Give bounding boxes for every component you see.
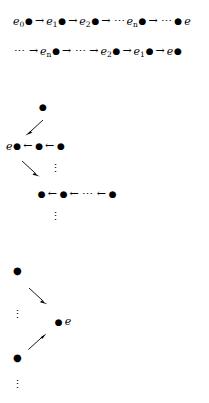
- arrow-left-4: ←: [70, 187, 79, 200]
- arrow-right-2: →: [68, 14, 77, 27]
- vdots-upper-block: ⋮: [50, 163, 61, 174]
- bullet-en: ●: [139, 16, 147, 26]
- bullet-second-lower-chain: ●: [60, 189, 68, 199]
- bullet-e-upper-chain: ●: [13, 141, 21, 151]
- node-label-e2: e2: [79, 15, 90, 28]
- horizontal-ellipsis-3: ⋯: [14, 45, 26, 58]
- lower-indented-chain-row: ●←●←⋯←●: [37, 188, 117, 200]
- arrow-left-2: ←: [45, 139, 54, 152]
- horizontal-ellipsis-2: ⋯: [161, 15, 173, 28]
- vdots-lower-left-bottom: ⋮: [12, 379, 23, 390]
- arrow-left-1: ←: [23, 139, 32, 152]
- bullet-e-row2: ●: [174, 46, 182, 56]
- apex-dot-lower-block: ●: [13, 266, 22, 276]
- bullet-right-lower-chain: ●: [109, 189, 117, 199]
- node-label-e-terminal-row1: e: [184, 15, 191, 28]
- node-label-en-row2: en: [40, 45, 51, 58]
- bullet-e1-row2: ●: [146, 46, 154, 56]
- node-label-en: en: [126, 15, 137, 28]
- bullet-e2: ●: [91, 16, 99, 26]
- bullet-en-row2: ●: [52, 46, 60, 56]
- arrow-right-1: →: [35, 14, 44, 27]
- upper-left-chain-row: e●←●←●: [6, 140, 65, 152]
- bullet-mid-upper-chain: ●: [35, 141, 43, 151]
- node-label-e0: e0: [13, 15, 24, 28]
- horizontal-ellipsis-4: ⋯: [75, 45, 87, 58]
- node-label-e-bottom-terminal: e: [65, 315, 72, 328]
- horizontal-ellipsis-5: ⋯: [82, 188, 94, 201]
- vdots-lower-left-upper: ⋮: [12, 309, 23, 320]
- bullet-right-upper-chain: ●: [57, 141, 65, 151]
- bullet-e0: ●: [25, 16, 33, 26]
- diagonal-arrow-southwest-upper: [24, 119, 44, 136]
- forward-chain-row: e0●→e1●→e2●→⋯en●→⋯●e: [13, 15, 191, 28]
- arrow-right-4: →: [148, 14, 157, 27]
- backward-chain-row: ⋯→en●→⋯→e2●→e1●→e●: [13, 45, 182, 58]
- arrow-left-3: ←: [48, 187, 57, 200]
- node-label-e2-row2: e2: [100, 45, 111, 58]
- bottom-terminal-row: ●e: [54, 316, 71, 327]
- node-label-e-upper-chain: e: [6, 140, 13, 153]
- node-label-e-row2: e: [167, 45, 174, 58]
- arrow-right-3: →: [101, 14, 110, 27]
- arrow-right-7: →: [89, 44, 98, 57]
- vdots-mid-block: ⋮: [50, 211, 61, 222]
- diagonal-arrow-southeast-upper: [21, 160, 41, 178]
- bullet-e2-row2: ●: [113, 46, 121, 56]
- bullet-e1: ●: [58, 16, 66, 26]
- horizontal-ellipsis-1: ⋯: [114, 15, 126, 28]
- arrow-right-9: →: [156, 44, 165, 57]
- diagonal-arrow-northeast-lower: [27, 332, 48, 351]
- apex-dot-upper-block: ●: [39, 103, 47, 112]
- bullet-terminal-row1: ●: [174, 16, 182, 26]
- diagram-canvas: e0●→e1●→e2●→⋯en●→⋯●e ⋯→en●→⋯→e2●→e1●→e● …: [0, 0, 209, 403]
- arrow-right-8: →: [122, 44, 131, 57]
- anchor-dot-lower-block: ●: [13, 353, 22, 363]
- arrow-right-6: →: [62, 44, 71, 57]
- arrow-right-5: →: [29, 44, 38, 57]
- diagonal-arrow-southeast-lower: [28, 287, 49, 306]
- bullet-left-lower-chain: ●: [38, 189, 46, 199]
- node-label-e1-row2: e1: [134, 45, 145, 58]
- node-label-e1: e1: [46, 15, 57, 28]
- bullet-bottom-terminal: ●: [55, 317, 63, 327]
- arrow-left-5: ←: [97, 187, 106, 200]
